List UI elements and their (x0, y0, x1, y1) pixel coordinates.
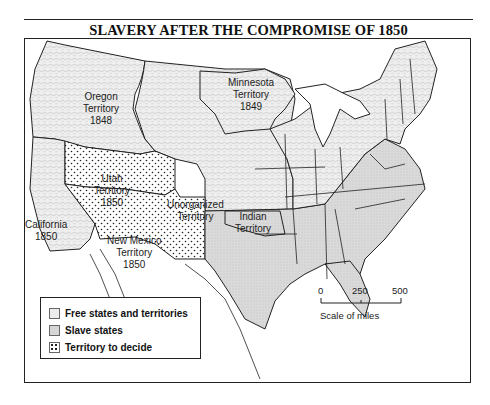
free-swatch (49, 308, 60, 319)
scale-line (320, 298, 420, 308)
legend-item-free: Free states and territories (49, 307, 188, 319)
unorganized-label: Unorganized Territory (167, 199, 224, 223)
utah-label: Utah Territory 1850 (94, 173, 130, 209)
undecided-swatch (49, 342, 60, 353)
indian-label: Indian Territory (235, 211, 271, 235)
title-rule (24, 19, 473, 20)
legend-item-undecided: Territory to decide (49, 341, 152, 353)
minnesota-label: Minnesota Territory 1849 (228, 77, 274, 113)
slave-swatch (49, 325, 60, 336)
california-label: California 1850 (25, 219, 67, 243)
oregon-label: Oregon Territory 1848 (83, 91, 119, 127)
legend-item-slave: Slave states (49, 324, 123, 336)
map-title: SLAVERY AFTER THE COMPROMISE OF 1850 (24, 22, 473, 39)
new-mexico-label: New Mexico Territory 1850 (107, 235, 161, 271)
scale-bar: 0 250 500 Scale of miles (318, 285, 438, 325)
map-legend: Free states and territories Slave states… (40, 297, 201, 359)
